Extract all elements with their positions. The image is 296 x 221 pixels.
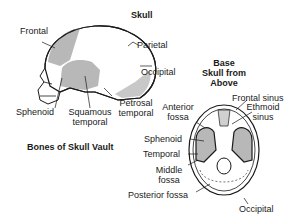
- label-sphenoid-lateral: Sphenoid: [16, 107, 54, 117]
- label-frontal: Frontal: [20, 26, 48, 36]
- label-sphenoid-base: Sphenoid: [144, 134, 182, 144]
- label-squamous-temporal: Squamous temporal: [67, 107, 113, 127]
- label-posterior-fossa: Posterior fossa: [128, 190, 188, 200]
- lateral-skull: [38, 26, 156, 108]
- label-petrosal-temporal: Petrosal temporal: [114, 98, 158, 118]
- label-middle-fossa: Middle fossa: [152, 165, 186, 185]
- label-parietal: Parietal: [137, 40, 168, 50]
- label-occipital-base: Occipital: [239, 204, 274, 214]
- title-base: Base Skull from Above: [201, 58, 247, 88]
- title-vault: Bones of Skull Vault: [27, 142, 114, 152]
- title-skull: Skull: [131, 10, 153, 20]
- label-anterior-fossa: Anterior fossa: [160, 102, 196, 122]
- label-occipital: Occipital: [141, 67, 176, 77]
- label-temporal: Temporal: [143, 149, 180, 159]
- label-ethmoid-sinus: Ethmoid sinus: [243, 102, 283, 122]
